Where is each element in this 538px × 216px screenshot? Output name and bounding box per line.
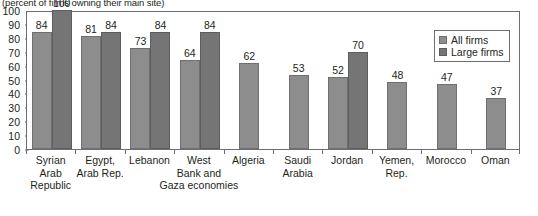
legend-item-all-firms[interactable]: All firms	[439, 34, 504, 46]
legend-swatch-icon-all-firms	[439, 36, 447, 44]
x-axis-label-line: Egypt,	[76, 154, 123, 167]
x-axis-label: Egypt,Arab Rep.	[76, 154, 123, 179]
y-tick-label: 50	[8, 75, 20, 86]
y-tick-label: 60	[8, 61, 20, 72]
bar-value-label: 84	[155, 20, 167, 31]
bar-group: 7384	[126, 12, 175, 149]
x-axis-label: Yemen,Rep.	[379, 154, 414, 179]
legend-item-large-firms[interactable]: Large firms	[439, 46, 504, 58]
x-axis-label: Morocco	[426, 154, 466, 167]
y-tick-label: 40	[8, 89, 20, 100]
bar-value-label: 100	[53, 0, 71, 9]
bar-value-label: 84	[105, 20, 117, 31]
x-axis-label-line: Saudi	[283, 154, 313, 167]
chart-subtitle: (percent of firms owning their main site…	[2, 0, 164, 8]
x-axis-label-line: Algeria	[232, 154, 265, 167]
bar-group: 84100	[27, 12, 76, 149]
x-axis-label-line: Arab Rep.	[76, 167, 123, 180]
bar-group: 5270	[323, 12, 372, 149]
chart-figure: (percent of firms owning their main site…	[0, 0, 538, 216]
x-axis-label: SaudiArabia	[283, 154, 313, 179]
bar-value-label: 70	[352, 40, 364, 51]
bar-large-firms[interactable]: 70	[348, 52, 368, 149]
x-axis-label: WestBank andGaza economies	[159, 154, 238, 192]
x-axis-label: Algeria	[232, 154, 265, 167]
bar-group: 8184	[76, 12, 125, 149]
y-tick-label: 0	[14, 145, 20, 156]
y-tick-label: 90	[8, 20, 20, 31]
bar-all-firms[interactable]: 48	[387, 82, 407, 149]
bar-value-label: 64	[184, 48, 196, 59]
bar-group: 62	[225, 12, 274, 149]
y-axis: 0102030405060708090100	[0, 11, 24, 150]
bar-group: 53	[274, 12, 323, 149]
legend-swatch-icon-large-firms	[439, 48, 447, 56]
bar-value-label: 84	[36, 20, 48, 31]
x-axis-label-line: Syrian	[30, 154, 71, 167]
x-axis-label-line: Arabia	[283, 167, 313, 180]
bar-all-firms[interactable]: 64	[180, 60, 200, 149]
x-axis-label-line: Oman	[481, 154, 510, 167]
x-axis-label-line: Jordan	[331, 154, 363, 167]
bar-large-firms[interactable]: 84	[150, 32, 170, 149]
bar-value-label: 37	[490, 86, 502, 97]
legend-label-large-firms: Large firms	[451, 47, 504, 58]
x-axis-label-line: Yemen,	[379, 154, 414, 167]
bar-value-label: 47	[441, 72, 453, 83]
x-axis-label-line: Morocco	[426, 154, 466, 167]
bar-value-label: 81	[85, 24, 97, 35]
bar-all-firms[interactable]: 47	[437, 84, 457, 149]
x-axis-label-line: Gaza economies	[159, 179, 238, 192]
bar-value-label: 52	[332, 65, 344, 76]
x-axis-label: SyrianArabRepublic	[30, 154, 71, 192]
bar-large-firms[interactable]: 84	[101, 32, 121, 149]
bar-all-firms[interactable]: 84	[32, 32, 52, 149]
y-tick-label: 10	[8, 131, 20, 142]
legend-label-all-firms: All firms	[451, 35, 488, 46]
bar-all-firms[interactable]: 62	[239, 63, 259, 149]
y-tick-label: 100	[2, 6, 20, 17]
x-axis-label-line: Republic	[30, 179, 71, 192]
bar-all-firms[interactable]: 53	[289, 75, 309, 149]
y-tick-label: 70	[8, 47, 20, 58]
y-tick-label: 20	[8, 117, 20, 128]
chart-legend: All firms Large firms	[434, 30, 510, 62]
x-axis-labels: SyrianArabRepublicEgypt,Arab Rep.Lebanon…	[26, 154, 520, 216]
x-axis-label-line: Rep.	[379, 167, 414, 180]
x-axis-label-line: Bank and	[159, 167, 238, 180]
bar-value-label: 53	[293, 63, 305, 74]
bar-group: 6484	[175, 12, 224, 149]
bar-group: 48	[373, 12, 422, 149]
x-axis-label-line: West	[159, 154, 238, 167]
bar-all-firms[interactable]: 52	[328, 77, 348, 149]
x-axis-label: Jordan	[331, 154, 363, 167]
bar-large-firms[interactable]: 84	[200, 32, 220, 149]
bar-all-firms[interactable]: 37	[486, 98, 506, 149]
bar-value-label: 62	[243, 51, 255, 62]
bar-all-firms[interactable]: 81	[81, 36, 101, 149]
x-axis-label: Oman	[481, 154, 510, 167]
bar-value-label: 84	[204, 20, 216, 31]
bar-large-firms[interactable]: 100	[52, 10, 72, 149]
bar-all-firms[interactable]: 73	[130, 48, 150, 149]
x-axis-label-line: Arab	[30, 167, 71, 180]
y-tick-label: 30	[8, 103, 20, 114]
bar-value-label: 73	[135, 36, 147, 47]
y-tick-label: 80	[8, 34, 20, 45]
bar-value-label: 48	[392, 70, 404, 81]
